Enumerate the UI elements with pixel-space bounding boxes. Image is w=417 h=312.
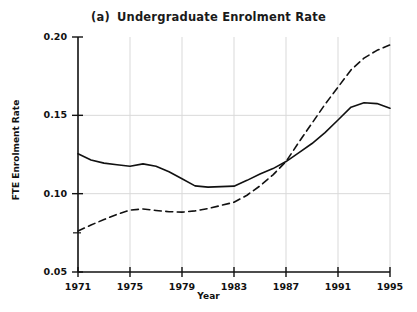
chart-figure: (a)Undergraduate Enrolment Rate 0.050.10… xyxy=(0,0,417,312)
axis-ticks xyxy=(72,37,390,277)
y-axis-title: FTE Enrolment Rate xyxy=(11,90,21,210)
x-axis-title: Year xyxy=(0,291,417,301)
gridlines xyxy=(78,37,390,272)
y-tick-label: 0.20 xyxy=(12,31,67,42)
y-tick-label: 0.05 xyxy=(12,266,67,277)
